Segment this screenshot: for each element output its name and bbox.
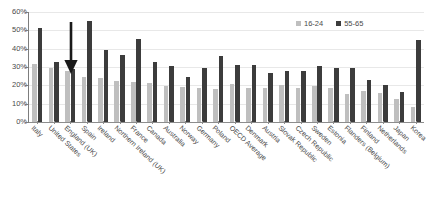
bar-old[interactable] xyxy=(153,62,158,122)
bar-young[interactable] xyxy=(279,85,284,122)
x-tick-mark xyxy=(185,121,186,124)
bar-old[interactable] xyxy=(38,28,43,122)
bar-group xyxy=(95,12,111,122)
chart-legend: 16-24 55-65 xyxy=(296,19,363,28)
bar-young[interactable] xyxy=(65,71,70,122)
bar-group xyxy=(227,12,243,122)
x-tick-mark xyxy=(136,121,137,124)
bar-old[interactable] xyxy=(202,68,207,122)
bar-old[interactable] xyxy=(169,66,174,122)
bar-young[interactable] xyxy=(197,88,202,122)
bar-young[interactable] xyxy=(213,89,218,122)
bar-old[interactable] xyxy=(285,71,290,122)
legend-label-old: 55-65 xyxy=(344,19,363,28)
bar-young[interactable] xyxy=(246,88,251,122)
bar-old[interactable] xyxy=(235,65,240,122)
bar-young[interactable] xyxy=(411,107,416,122)
bar-young[interactable] xyxy=(98,78,103,122)
bar-young[interactable] xyxy=(361,91,366,122)
bar-old[interactable] xyxy=(186,77,191,122)
bar-young[interactable] xyxy=(394,99,399,122)
bar-group xyxy=(259,12,275,122)
bar-young[interactable] xyxy=(49,68,54,122)
x-tick-mark xyxy=(169,121,170,124)
bar-group xyxy=(210,12,226,122)
x-tick-mark xyxy=(399,121,400,124)
bar-young[interactable] xyxy=(263,88,268,122)
plot-area xyxy=(29,12,424,122)
legend-label-young: 16-24 xyxy=(304,19,323,28)
bar-young[interactable] xyxy=(296,88,301,122)
bar-old[interactable] xyxy=(367,80,372,122)
bar-young[interactable] xyxy=(82,77,87,122)
bar-old[interactable] xyxy=(383,85,388,122)
x-tick-mark xyxy=(235,121,236,124)
bar-group xyxy=(408,12,424,122)
x-tick-mark xyxy=(218,121,219,124)
bar-young[interactable] xyxy=(180,87,185,122)
bar-young[interactable] xyxy=(32,64,37,122)
legend-item-old[interactable]: 55-65 xyxy=(336,19,363,28)
bar-group xyxy=(144,12,160,122)
bar-young[interactable] xyxy=(131,82,136,122)
bar-old[interactable] xyxy=(301,71,306,122)
bar-group xyxy=(276,12,292,122)
bar-young[interactable] xyxy=(345,94,350,122)
bar-young[interactable] xyxy=(164,86,169,122)
bar-old[interactable] xyxy=(219,56,224,122)
x-tick-mark xyxy=(37,121,38,124)
bar-old[interactable] xyxy=(71,69,76,122)
y-axis-labels: 60%50%40%30%20%10%0% xyxy=(0,12,27,122)
x-tick-mark xyxy=(87,121,88,124)
bar-group xyxy=(375,12,391,122)
bar-group xyxy=(111,12,127,122)
bar-group xyxy=(161,12,177,122)
bar-young[interactable] xyxy=(378,93,383,122)
y-tick-label: 20% xyxy=(1,81,27,89)
bar-group xyxy=(243,12,259,122)
x-tick-mark xyxy=(301,121,302,124)
x-tick-mark xyxy=(284,121,285,124)
bar-old[interactable] xyxy=(317,66,322,122)
bar-young[interactable] xyxy=(114,81,119,122)
bar-group xyxy=(45,12,61,122)
bar-old[interactable] xyxy=(87,21,92,122)
bar-old[interactable] xyxy=(268,73,273,123)
chart-title xyxy=(0,0,428,4)
bar-young[interactable] xyxy=(328,88,333,122)
bar-group xyxy=(342,12,358,122)
x-tick-label: Italy xyxy=(30,124,45,139)
legend-swatch-icon-old xyxy=(336,21,341,26)
bar-group xyxy=(177,12,193,122)
y-tick-label: 10% xyxy=(1,100,27,108)
bar-old[interactable] xyxy=(350,68,355,122)
bar-young[interactable] xyxy=(147,83,152,122)
x-tick-mark xyxy=(120,121,121,124)
bar-group xyxy=(325,12,341,122)
bar-group xyxy=(62,12,78,122)
bar-old[interactable] xyxy=(416,40,421,122)
chart-container: 60%50%40%30%20%10%0% ItalyUnited StatesE… xyxy=(0,0,428,203)
bar-young[interactable] xyxy=(230,84,235,122)
x-tick-mark xyxy=(54,121,55,124)
bar-old[interactable] xyxy=(136,39,141,122)
bar-old[interactable] xyxy=(104,50,109,122)
x-tick-mark xyxy=(251,121,252,124)
y-tick-label: 50% xyxy=(1,26,27,34)
x-tick-mark xyxy=(202,121,203,124)
bar-old[interactable] xyxy=(120,55,125,122)
x-tick-mark xyxy=(350,121,351,124)
bar-old[interactable] xyxy=(334,68,339,122)
y-tick-label: 40% xyxy=(1,45,27,53)
bar-old[interactable] xyxy=(54,62,59,123)
bar-young[interactable] xyxy=(312,86,317,122)
bar-group xyxy=(194,12,210,122)
bar-old[interactable] xyxy=(400,92,405,122)
bar-old[interactable] xyxy=(252,65,257,122)
x-tick-mark xyxy=(416,121,417,124)
x-tick-mark xyxy=(268,121,269,124)
x-tick-label: Korea xyxy=(408,124,427,143)
legend-item-young[interactable]: 16-24 xyxy=(296,19,323,28)
x-tick-mark xyxy=(103,121,104,124)
x-tick-mark xyxy=(317,121,318,124)
